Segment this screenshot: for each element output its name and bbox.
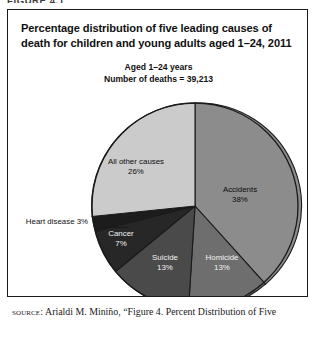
pie-label-accidents-name: Accidents	[204, 185, 276, 195]
pie-label-suicide-name: Suicide	[137, 253, 193, 263]
source-note-kicker: source:	[12, 306, 43, 317]
pie-label-cancer-name: Cancer	[94, 229, 148, 239]
pie-label-heart-disease-value: 3%	[77, 217, 88, 226]
pie-label-all-other-causes-name: All other causes	[86, 157, 186, 167]
pie-label-homicide-value: 13%	[193, 263, 251, 273]
pie-label-heart-disease: Heart disease 3%	[14, 217, 100, 227]
pie-label-all-other-causes-value: 26%	[86, 167, 186, 177]
pie-label-homicide: Homicide 13%	[193, 253, 251, 272]
figure-number-label: FIGURE 4.1	[7, 0, 65, 3]
figure-page: FIGURE 4.1 Percentage distribution of fi…	[0, 0, 321, 338]
pie-label-cancer: Cancer 7%	[94, 229, 148, 248]
pie-label-cancer-value: 7%	[94, 239, 148, 249]
pie-label-all-other-causes: All other causes 26%	[86, 157, 186, 176]
pie-label-suicide-value: 13%	[137, 263, 193, 273]
source-note-text: Arialdi M. Miniño, “Figure 4. Percent Di…	[45, 306, 276, 317]
pie-label-suicide: Suicide 13%	[137, 253, 193, 272]
source-note: source: Arialdi M. Miniño, “Figure 4. Pe…	[12, 306, 312, 318]
pie-label-homicide-name: Homicide	[193, 253, 251, 263]
figure-frame: Percentage distribution of five leading …	[7, 9, 308, 297]
pie-chart: Accidents 38% All other causes 26% Cance…	[8, 10, 308, 297]
pie-label-heart-disease-leader-line	[95, 227, 129, 228]
pie-label-accidents: Accidents 38%	[204, 185, 276, 204]
pie-label-heart-disease-name: Heart disease	[26, 217, 75, 226]
pie-label-accidents-value: 38%	[204, 195, 276, 205]
